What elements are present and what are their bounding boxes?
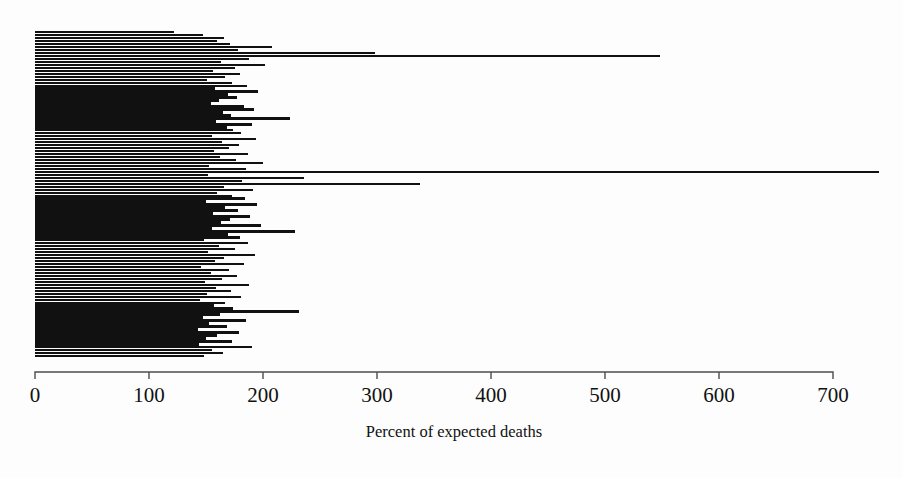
bar (35, 87, 215, 89)
bar (35, 195, 232, 197)
bar (35, 82, 232, 84)
bar (35, 153, 248, 155)
bar (35, 212, 213, 214)
bar (35, 269, 229, 271)
bar (35, 159, 236, 161)
bar (35, 239, 204, 241)
bar (35, 307, 233, 309)
bar (35, 141, 222, 143)
bar (35, 242, 248, 244)
bar (35, 233, 228, 235)
bar (35, 40, 217, 42)
bar-chart-plot: 0100200300400500600700 Percent of expect… (0, 0, 903, 478)
bar (35, 61, 221, 63)
bar (35, 230, 295, 232)
bar (35, 58, 249, 60)
bar (35, 215, 250, 217)
bar (35, 313, 220, 315)
x-tick-label: 300 (361, 383, 393, 407)
bar (35, 272, 211, 274)
bar (35, 186, 224, 188)
bar (35, 304, 214, 306)
bar (35, 355, 204, 357)
bar (35, 266, 201, 268)
bar (35, 275, 237, 277)
bar (35, 46, 272, 48)
bar (35, 254, 255, 256)
bar (35, 99, 219, 101)
x-tick-label: 100 (133, 383, 165, 407)
bar (35, 147, 229, 149)
bar (35, 209, 238, 211)
bar (35, 85, 247, 87)
bar (35, 284, 249, 286)
bar (35, 168, 246, 170)
x-axis (35, 372, 833, 379)
x-axis-title: Percent of expected deaths (366, 422, 542, 441)
bar (35, 129, 233, 131)
bar (35, 224, 261, 226)
bar (35, 64, 265, 66)
bar (35, 278, 222, 280)
x-axis-tick-labels: 0100200300400500600700 (30, 383, 849, 407)
bar (35, 310, 299, 312)
bar (35, 52, 375, 54)
bar (35, 346, 252, 348)
x-tick-label: 700 (817, 383, 849, 407)
bar (35, 37, 224, 39)
bar (35, 322, 209, 324)
bar (35, 93, 228, 95)
bar (35, 102, 211, 104)
bar (35, 120, 216, 122)
bar (35, 316, 203, 318)
bar (35, 218, 230, 220)
bar (35, 296, 241, 298)
bar (35, 352, 223, 354)
bar (35, 114, 231, 116)
bar (35, 334, 217, 336)
bar (35, 263, 244, 265)
bar (35, 55, 660, 57)
x-tick-label: 200 (247, 383, 279, 407)
bar (35, 227, 212, 229)
bar (35, 96, 237, 98)
bar (35, 111, 223, 113)
bar (35, 79, 207, 81)
bar (35, 197, 245, 199)
bar (35, 73, 240, 75)
x-tick-label: 600 (703, 383, 735, 407)
bar (35, 70, 213, 72)
bar (35, 248, 235, 250)
bar (35, 150, 214, 152)
bar (35, 126, 227, 128)
bar (35, 76, 225, 78)
bar (35, 200, 206, 202)
bar (35, 221, 221, 223)
bar (35, 171, 879, 173)
x-tick-label: 0 (30, 383, 41, 407)
bar (35, 287, 216, 289)
bar (35, 162, 263, 164)
bar (35, 192, 217, 194)
bar (35, 135, 212, 137)
bar (35, 257, 224, 259)
x-tick-label: 500 (589, 383, 621, 407)
bar (35, 245, 219, 247)
bar (35, 117, 290, 119)
bar (35, 165, 209, 167)
bar (35, 260, 215, 262)
bar (35, 281, 205, 283)
bar (35, 337, 206, 339)
bar (35, 123, 252, 125)
bar (35, 236, 240, 238)
chart-figure: 0100200300400500600700 Percent of expect… (0, 0, 903, 478)
bar (35, 183, 420, 185)
bar (35, 319, 246, 321)
bar (35, 132, 241, 134)
bar (35, 108, 254, 110)
bar (35, 290, 231, 292)
bar (35, 174, 208, 176)
bar (35, 144, 239, 146)
bar (35, 34, 203, 36)
bar (35, 302, 225, 304)
